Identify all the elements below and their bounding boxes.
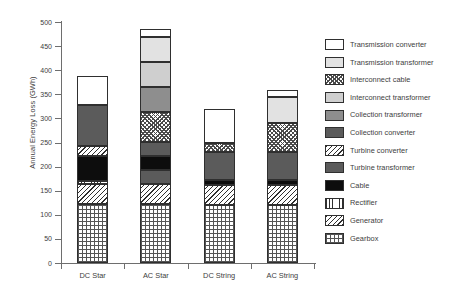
bar-segment-gearbox <box>204 205 235 263</box>
legend-swatch-icon <box>325 162 344 173</box>
legend-swatch-icon <box>325 110 344 121</box>
bar-segment-cable <box>267 180 298 185</box>
y-axis-tick-label: 250 <box>14 139 52 146</box>
bar-segment-cable <box>204 180 235 185</box>
bar-segment-transmission-converter <box>140 29 171 37</box>
bar-segment-turbine-converter <box>140 112 171 142</box>
y-axis-tick-label: 350 <box>14 91 52 98</box>
legend-item-label: Turbine converter <box>350 147 408 154</box>
y-axis-tick-label: 200 <box>14 163 52 170</box>
y-axis-tick-label: 400 <box>14 67 52 74</box>
legend-item: Turbine converter <box>325 142 451 160</box>
x-axis-category-label: AC Star <box>121 272 191 279</box>
plot-area <box>61 22 314 263</box>
bar-segment-generator <box>140 184 171 204</box>
legend-item: Turbine transformer <box>325 159 451 177</box>
bar-segment-collection-transformer <box>140 87 171 112</box>
legend-item-label: Turbine transformer <box>350 164 415 171</box>
bar-segment-transmission-converter <box>204 109 235 144</box>
x-axis-tick <box>61 264 62 269</box>
x-axis-tick <box>188 264 189 269</box>
legend-item-label: Collection transformer <box>350 111 422 118</box>
bar-segment-gearbox <box>77 204 108 263</box>
x-axis-category-label: AC String <box>247 272 317 279</box>
legend-item: Interconnect cable <box>325 71 451 89</box>
legend-item: Transmission transformer <box>325 54 451 72</box>
x-axis-line <box>61 263 316 264</box>
legend-swatch-icon <box>325 92 344 103</box>
x-axis-category-label: DC String <box>184 272 254 279</box>
bar-segment-turbine-converter <box>204 143 235 152</box>
bar-ac-string <box>267 22 298 263</box>
bar-dc-star <box>77 22 108 263</box>
legend-item: Cable <box>325 177 451 195</box>
bar-segment-generator <box>267 185 298 204</box>
legend-item: Interconnect transformer <box>325 89 451 107</box>
bar-segment-generator <box>77 184 108 204</box>
legend-item-label: Transmission converter <box>350 41 427 48</box>
legend-item: Transmission converter <box>325 36 451 54</box>
chart-legend: Transmission converterTransmission trans… <box>325 36 451 247</box>
legend-swatch-icon <box>325 74 344 85</box>
stacked-bar-chart: Annual Energy Loss (GWh) 050100150200250… <box>0 0 453 294</box>
bar-segment-turbine-converter <box>77 146 108 156</box>
legend-item-label: Transmission transformer <box>350 59 434 66</box>
y-axis-tick-label: 300 <box>14 115 52 122</box>
x-axis-category-label: DC Star <box>58 272 128 279</box>
bar-segment-collection-converter <box>140 142 171 156</box>
y-axis-tick-label: 100 <box>14 211 52 218</box>
legend-swatch-icon <box>325 198 344 209</box>
legend-item-label: Collection converter <box>350 129 415 136</box>
bar-segment-turbine-converter <box>267 123 298 152</box>
legend-swatch-icon <box>325 127 344 138</box>
legend-item-label: Interconnect cable <box>350 76 410 83</box>
legend-item: Generator <box>325 212 451 230</box>
bar-segment-rectifier <box>77 181 108 185</box>
legend-item: Collection converter <box>325 124 451 142</box>
legend-swatch-icon <box>325 180 344 191</box>
bar-segment-cable <box>77 156 108 181</box>
bar-segment-interconnect-transformer <box>140 62 171 87</box>
bar-segment-transmission-transformer <box>140 37 171 62</box>
legend-swatch-icon <box>325 215 344 226</box>
y-axis-title: Annual Energy Loss (GWh) <box>28 33 37 213</box>
bar-segment-cable <box>140 156 171 170</box>
legend-item-label: Gearbox <box>350 235 378 242</box>
legend-swatch-icon <box>325 57 344 68</box>
legend-swatch-icon <box>325 233 344 244</box>
x-axis-tick <box>314 264 315 269</box>
legend-swatch-icon <box>325 145 344 156</box>
bar-segment-transmission-converter <box>267 90 298 97</box>
bar-segment-turbine-transformer <box>140 170 171 184</box>
y-axis-tick-label: 150 <box>14 187 52 194</box>
bar-segment-gearbox <box>267 205 298 263</box>
bar-segment-generator <box>204 185 235 204</box>
bar-segment-turbine-transformer <box>267 152 298 180</box>
y-axis-tick-label: 50 <box>14 235 52 242</box>
legend-item-label: Rectifier <box>350 199 377 206</box>
bar-segment-gearbox <box>140 204 171 263</box>
y-axis-tick-label: 0 <box>14 260 52 267</box>
bar-dc-string <box>204 22 235 263</box>
bar-segment-transmission-transformer <box>267 97 298 123</box>
y-axis-tick-label: 500 <box>14 19 52 26</box>
y-axis-tick-label: 450 <box>14 43 52 50</box>
x-axis-tick <box>251 264 252 269</box>
legend-item-label: Interconnect transformer <box>350 94 431 101</box>
legend-swatch-icon <box>325 39 344 50</box>
legend-item: Gearbox <box>325 230 451 248</box>
legend-item-label: Cable <box>350 182 369 189</box>
bar-segment-collection-converter <box>77 105 108 145</box>
bar-ac-star <box>140 22 171 263</box>
legend-item: Collection transformer <box>325 106 451 124</box>
bar-segment-collection-converter <box>204 152 235 180</box>
legend-item-label: Generator <box>350 217 383 224</box>
bar-segment-transmission-converter <box>77 76 108 105</box>
legend-item: Rectifier <box>325 194 451 212</box>
x-axis-tick <box>124 264 125 269</box>
